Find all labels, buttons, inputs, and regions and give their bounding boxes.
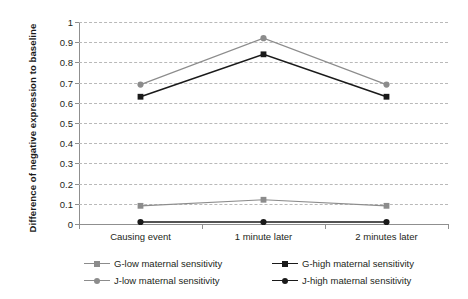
y-tick-label: 0 <box>68 219 73 230</box>
data-point-marker <box>261 197 267 203</box>
x-tick-label: 1 minute later <box>235 231 293 242</box>
legend-marker <box>282 261 288 267</box>
legend-marker <box>282 278 288 284</box>
plot-area: 00.10.20.30.40.50.60.70.80.91 Causing ev… <box>79 22 448 224</box>
data-point-marker <box>137 219 143 225</box>
series-g-high-maternal-sensitivity <box>138 51 390 99</box>
y-tick-label: 0.8 <box>60 57 73 68</box>
series-g-low-maternal-sensitivity <box>138 197 390 209</box>
x-tick-mark <box>448 224 449 229</box>
legend-marker <box>94 278 100 284</box>
x-tick-mark <box>325 224 326 229</box>
y-tick-label: 0.2 <box>60 178 73 189</box>
data-point-marker <box>138 203 144 209</box>
y-tick-label: 0.7 <box>60 77 73 88</box>
data-point-marker <box>384 203 390 209</box>
x-tick-label: 2 minutes later <box>355 231 417 242</box>
legend-item[interactable]: G-low maternal sensitivity <box>84 255 256 272</box>
data-point-marker <box>383 82 389 88</box>
legend-circle-marker-icon <box>84 275 110 286</box>
data-point-marker <box>384 94 390 100</box>
legend-label: J-high maternal sensitivity <box>302 275 411 286</box>
legend-item[interactable]: J-low maternal sensitivity <box>84 272 256 289</box>
data-point-marker <box>383 219 389 225</box>
y-axis-title: Difference of negative expression to bas… <box>22 8 44 248</box>
y-tick-label: 0.5 <box>60 118 73 129</box>
x-tick-mark <box>79 224 80 229</box>
legend-item[interactable]: G-high maternal sensitivity <box>272 255 444 272</box>
y-tick-label: 0.9 <box>60 37 73 48</box>
y-tick-label: 1 <box>68 17 73 28</box>
data-point-marker <box>138 94 144 100</box>
legend-circle-marker-icon <box>272 275 298 286</box>
chart-legend: G-low maternal sensitivityG-high materna… <box>84 255 444 289</box>
data-point-marker <box>260 35 266 41</box>
legend-square-marker-icon <box>84 258 110 269</box>
data-point-marker <box>137 82 143 88</box>
y-tick-label: 0.1 <box>60 198 73 209</box>
series-line <box>141 38 387 84</box>
series-layer <box>79 22 448 224</box>
legend-label: G-low maternal sensitivity <box>114 258 222 269</box>
legend-label: G-high maternal sensitivity <box>302 258 414 269</box>
series-j-low-maternal-sensitivity <box>137 35 389 88</box>
x-tick-mark <box>202 224 203 229</box>
legend-label: J-low maternal sensitivity <box>114 275 220 286</box>
data-point-marker <box>261 51 267 57</box>
y-tick-label: 0.6 <box>60 97 73 108</box>
legend-marker <box>94 261 100 267</box>
y-tick-label: 0.3 <box>60 158 73 169</box>
data-point-marker <box>260 219 266 225</box>
line-chart: Difference of negative expression to bas… <box>0 0 468 299</box>
legend-square-marker-icon <box>272 258 298 269</box>
y-tick-label: 0.4 <box>60 138 73 149</box>
legend-item[interactable]: J-high maternal sensitivity <box>272 272 444 289</box>
x-tick-label: Causing event <box>110 231 171 242</box>
series-line <box>141 54 387 96</box>
